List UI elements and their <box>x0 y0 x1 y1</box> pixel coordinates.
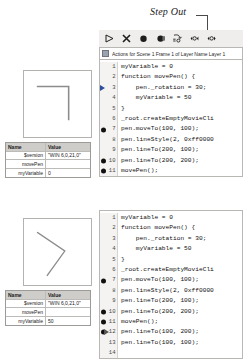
code-line-gutter[interactable]: 12 <box>100 176 118 177</box>
variables-header-value[interactable]: Value <box>46 291 90 299</box>
variables-row[interactable]: $version"WIN 6,0,21,0" <box>6 300 90 309</box>
code-line[interactable]: 4 myVariable = 50 <box>100 244 242 254</box>
code-line-gutter[interactable]: 2 <box>100 223 118 233</box>
code-line-number: 3 <box>112 83 115 93</box>
code-line[interactable]: 7pen.moveTo(100, 100); <box>100 275 242 285</box>
variable-name-cell: $version <box>6 152 46 160</box>
toggle-breakpoint-button[interactable] <box>136 31 151 46</box>
code-line[interactable]: 11movePen(); <box>100 166 242 176</box>
code-line-gutter[interactable]: 4 <box>100 244 118 254</box>
code-line-text: _root.createEmptyMovieCli <box>118 114 214 124</box>
corner-shape-rotated-30-drawing <box>24 219 91 285</box>
code-line[interactable]: 5} <box>100 104 242 114</box>
code-line-text: pen.lineTo(100, 200); <box>118 327 199 337</box>
variable-name-cell: myVariable <box>6 169 46 178</box>
variables-before[interactable]: NameValue$version"WIN 6,0,21,0"movePenmy… <box>5 142 91 178</box>
code-line-gutter[interactable]: 8 <box>100 135 118 145</box>
variables-row[interactable]: movePen <box>6 160 90 169</box>
stop-debugging-button[interactable] <box>119 31 134 46</box>
code-line[interactable]: 1myVariable = 0 <box>100 62 242 72</box>
code-line-gutter[interactable]: 14 <box>100 348 118 358</box>
code-line[interactable]: 8pen.lineStyle(2, 0xff0000 <box>100 135 242 145</box>
code-line[interactable]: 12pen.lineTo(100, 200); <box>100 327 242 337</box>
code-line-gutter[interactable]: 12 <box>100 327 118 337</box>
code-line[interactable]: 3 pen._rotation = 30; <box>100 234 242 244</box>
code-line-gutter[interactable]: 10 <box>100 307 118 317</box>
code-line-gutter[interactable]: 7 <box>100 275 118 285</box>
code-line-text: movePen(); <box>118 166 158 176</box>
code-line-gutter[interactable]: 10 <box>100 156 118 166</box>
breakpoint-dot-icon[interactable] <box>101 158 106 163</box>
variable-value-cell[interactable]: "WIN 6,0,21,0" <box>46 152 90 160</box>
code-line-gutter[interactable]: 3 <box>100 234 118 244</box>
code-line-gutter[interactable]: 1 <box>100 213 118 223</box>
remove-breakpoints-button[interactable] <box>153 31 168 46</box>
code-line-text: pen.lineTo(100, 100); <box>118 338 199 348</box>
code-line[interactable]: 11movePen(); <box>100 317 242 327</box>
code-line-gutter[interactable]: 11 <box>100 166 118 176</box>
stage-after <box>23 218 92 286</box>
breakpoint-dot-icon[interactable] <box>101 169 106 174</box>
code-line-gutter[interactable]: 7 <box>100 124 118 134</box>
code-line[interactable]: 2function movePen() { <box>100 72 242 82</box>
variables-row[interactable]: myVariable50 <box>6 317 90 326</box>
code-line[interactable]: 5} <box>100 255 242 265</box>
variable-value-cell[interactable] <box>46 160 90 168</box>
code-line-number: 1 <box>112 213 115 223</box>
breakpoint-dot-icon[interactable] <box>101 309 106 314</box>
code-line-gutter[interactable]: 5 <box>100 104 118 114</box>
code-panel-after[interactable]: 1myVariable = 02function movePen() {3 pe… <box>99 210 243 359</box>
code-line-gutter[interactable]: 11 <box>100 317 118 327</box>
code-line[interactable]: 9pen.lineTo(200, 100); <box>100 145 242 155</box>
variables-after[interactable]: NameValue$version"WIN 6,0,21,0"movePenmy… <box>5 290 91 326</box>
code-line-gutter[interactable]: 2 <box>100 72 118 82</box>
variable-value-cell[interactable]: 50 <box>46 317 90 326</box>
code-line-gutter[interactable]: 8 <box>100 286 118 296</box>
code-line[interactable]: 8pen.lineStyle(2, 0xff0000 <box>100 286 242 296</box>
variables-row[interactable]: movePen <box>6 308 90 317</box>
code-panel-before[interactable]: 1myVariable = 02function movePen() {3 pe… <box>99 59 243 177</box>
step-over-button[interactable] <box>187 31 202 46</box>
breakpoint-dot-icon[interactable] <box>101 278 106 283</box>
code-line[interactable]: 10pen.lineTo(200, 200); <box>100 307 242 317</box>
variable-value-cell[interactable]: 0 <box>46 169 90 178</box>
variables-row[interactable]: myVariable0 <box>6 169 90 178</box>
step-in-button[interactable] <box>170 31 185 46</box>
code-line-gutter[interactable]: 4 <box>100 93 118 103</box>
code-line-gutter[interactable]: 13 <box>100 338 118 348</box>
variables-row[interactable]: $version"WIN 6,0,21,0" <box>6 152 90 161</box>
code-line[interactable]: 9pen.lineTo(200, 100); <box>100 296 242 306</box>
code-line-text: myVariable = 0 <box>118 213 173 223</box>
breakpoint-dot-icon[interactable] <box>101 127 106 132</box>
variables-header-name[interactable]: Name <box>6 291 46 299</box>
variable-name-cell: $version <box>6 300 46 308</box>
code-line-gutter[interactable]: 1 <box>100 62 118 72</box>
code-line[interactable]: 12pen.lineTo(100, 200); <box>100 176 242 177</box>
code-line-text: _root.createEmptyMovieCli <box>118 265 214 275</box>
code-line[interactable]: 3 pen._rotation = 30; <box>100 83 242 93</box>
variable-value-cell[interactable]: "WIN 6,0,21,0" <box>46 300 90 308</box>
code-line[interactable]: 10pen.lineTo(200, 200); <box>100 156 242 166</box>
code-line-gutter[interactable]: 5 <box>100 255 118 265</box>
code-line-gutter[interactable]: 9 <box>100 145 118 155</box>
step-out-button[interactable] <box>204 31 219 46</box>
variable-value-cell[interactable] <box>46 308 90 316</box>
code-line-gutter[interactable]: 6 <box>100 265 118 275</box>
code-line[interactable]: 4 myVariable = 50 <box>100 93 242 103</box>
code-line-gutter[interactable]: 3 <box>100 83 118 93</box>
code-line[interactable]: 7pen.moveTo(100, 100); <box>100 124 242 134</box>
continue-button[interactable] <box>102 31 117 46</box>
code-line[interactable]: 13pen.lineTo(100, 100); <box>100 338 242 348</box>
code-line[interactable]: 2function movePen() { <box>100 223 242 233</box>
variables-header-name[interactable]: Name <box>6 143 46 151</box>
code-line[interactable]: 6_root.createEmptyMovieCli <box>100 265 242 275</box>
code-line-number: 12 <box>109 176 116 177</box>
variables-header-value[interactable]: Value <box>46 143 90 151</box>
code-line[interactable]: 14 <box>100 348 242 358</box>
code-line-text: pen.lineTo(200, 100); <box>118 145 199 155</box>
code-line-gutter[interactable]: 6 <box>100 114 118 124</box>
code-line-gutter[interactable]: 9 <box>100 296 118 306</box>
code-line[interactable]: 6_root.createEmptyMovieCli <box>100 114 242 124</box>
code-line[interactable]: 1myVariable = 0 <box>100 213 242 223</box>
breakpoint-dot-icon[interactable] <box>101 320 106 325</box>
